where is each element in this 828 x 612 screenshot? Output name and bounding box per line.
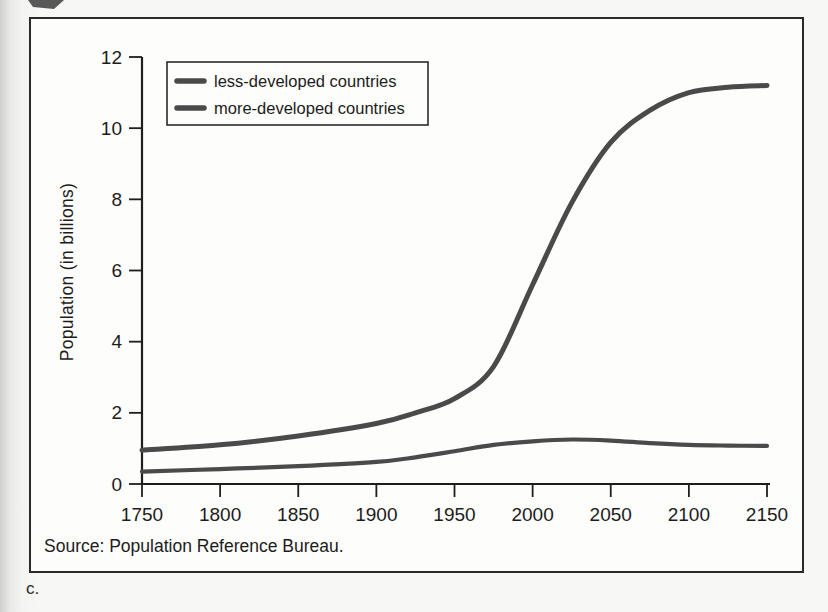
x-tick-label-1800: 1800 bbox=[199, 504, 241, 525]
x-tick-label-1950: 1950 bbox=[433, 504, 475, 525]
legend-label-less-developed: less-developed countries bbox=[214, 72, 397, 90]
y-tick-label-8: 8 bbox=[111, 189, 122, 210]
y-tick-label-6: 6 bbox=[111, 260, 122, 281]
x-tick-label-2050: 2050 bbox=[590, 504, 632, 525]
figure-caption: c. bbox=[26, 579, 39, 598]
y-tick-label-2: 2 bbox=[111, 402, 122, 423]
y-tick-label-4: 4 bbox=[111, 331, 122, 352]
x-tick-label-1900: 1900 bbox=[355, 504, 397, 525]
population-chart: 024681012 175018001850190019502000205021… bbox=[0, 0, 828, 612]
y-tick-label-12: 12 bbox=[101, 47, 122, 68]
source-note: Source: Population Reference Bureau. bbox=[44, 536, 344, 556]
x-tick-label-1750: 1750 bbox=[121, 504, 163, 525]
legend-label-more-developed: more-developed countries bbox=[214, 99, 405, 117]
y-tick-label-10: 10 bbox=[101, 118, 122, 139]
y-tick-label-0: 0 bbox=[111, 474, 122, 495]
x-tick-label-2150: 2150 bbox=[746, 504, 788, 525]
x-tick-label-2000: 2000 bbox=[511, 504, 553, 525]
x-axis-ticks: 175018001850190019502000205021002150 bbox=[121, 484, 788, 525]
legend: less-developed countries more-developed … bbox=[167, 62, 428, 125]
y-axis-title: Population (in billions) bbox=[57, 183, 77, 361]
x-tick-label-2100: 2100 bbox=[668, 504, 710, 525]
scan-artifact-mark bbox=[28, 0, 64, 9]
x-tick-label-1850: 1850 bbox=[277, 504, 319, 525]
